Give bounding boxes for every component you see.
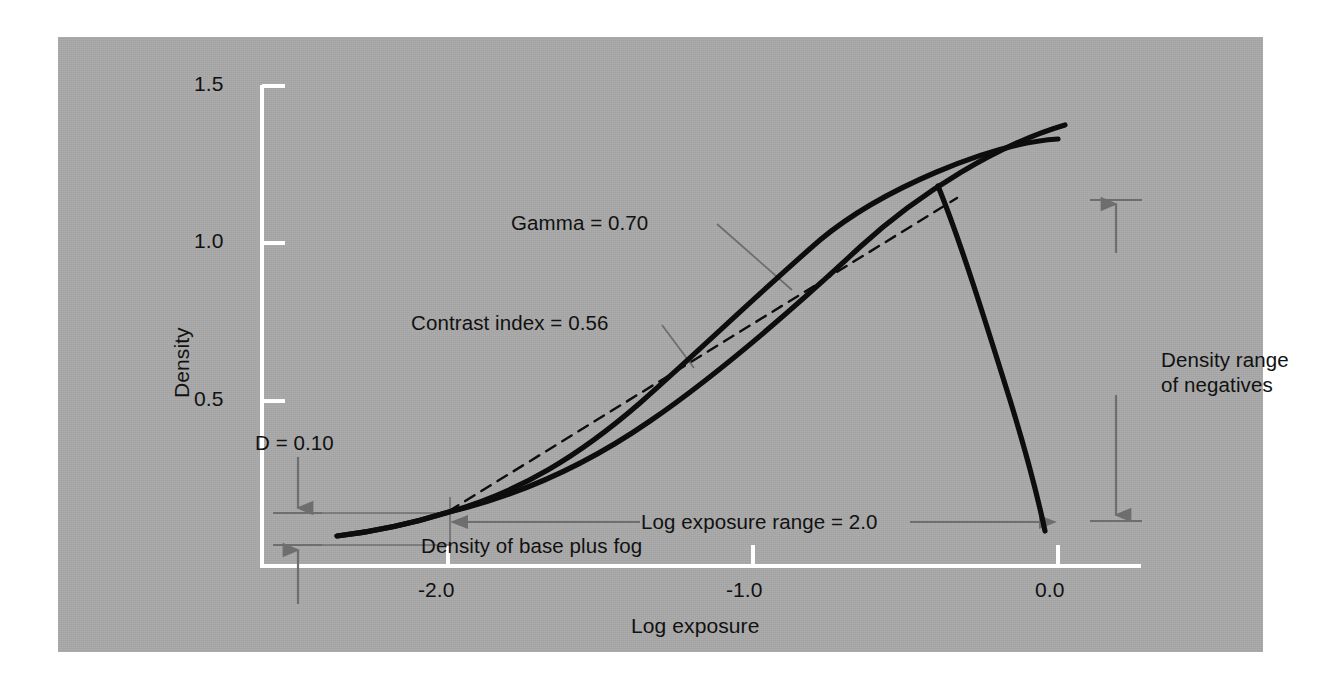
- annotation-density-range-line1: Density range: [1161, 348, 1289, 372]
- annotation-log-exposure-range: Log exposure range = 2.0: [641, 510, 878, 534]
- x-tick-label--1.0: -1.0: [726, 578, 763, 603]
- figure-container: 1.5 1.0 0.5 Density -2.0 -1.0 0.0 Log ex…: [0, 0, 1320, 695]
- y-tick-label-0.5: 0.5: [194, 387, 224, 412]
- series-contrast-index-line: [449, 198, 957, 511]
- annotation-contrast-index: Contrast index = 0.56: [411, 311, 609, 335]
- y-tick-label-1.5: 1.5: [194, 72, 224, 97]
- axis-group: [260, 85, 1141, 566]
- annotation-gamma: Gamma = 0.70: [511, 211, 648, 235]
- series-density-range-curve: [938, 186, 1045, 531]
- x-tick-label--2.0: -2.0: [418, 578, 455, 603]
- y-axis-label: Density: [170, 327, 195, 398]
- y-tick-label-1.0: 1.0: [194, 229, 224, 254]
- chart-svg: [0, 0, 1320, 695]
- annotation-density-range-line2: of negatives: [1161, 373, 1273, 397]
- annotation-density-base-fog: Density of base plus fog: [421, 534, 642, 558]
- gamma-leader-line: [717, 224, 792, 290]
- annotation-d-value: D = 0.10: [255, 431, 334, 455]
- series-characteristic-upper: [337, 139, 1058, 536]
- x-axis-label: Log exposure: [631, 614, 759, 639]
- x-tick-label-0.0: 0.0: [1035, 578, 1065, 603]
